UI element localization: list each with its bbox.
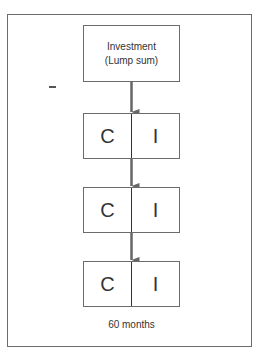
ci-box-2: C I — [83, 187, 180, 233]
ci-box-3: C I — [83, 261, 180, 307]
c-cell: C — [84, 188, 132, 232]
i-cell: I — [132, 262, 179, 306]
c-cell: C — [84, 262, 132, 306]
duration-caption: 60 months — [83, 319, 180, 330]
ci-box-1: C I — [83, 113, 180, 159]
i-cell: I — [132, 114, 179, 158]
i-cell: I — [132, 188, 179, 232]
c-cell: C — [84, 114, 132, 158]
